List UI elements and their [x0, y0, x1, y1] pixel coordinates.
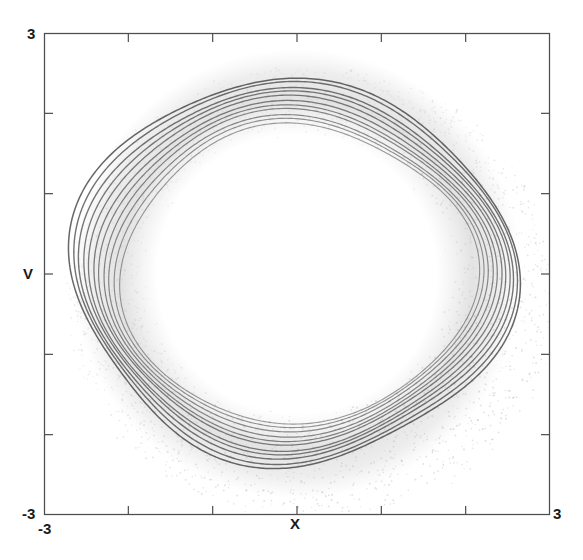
scatter-point	[540, 267, 542, 269]
scatter-point	[342, 507, 344, 509]
scatter-point	[172, 171, 174, 173]
scatter-point	[249, 87, 251, 89]
scatter-point	[329, 96, 330, 97]
scatter-point	[136, 196, 137, 197]
scatter-point	[316, 122, 318, 124]
scatter-point	[146, 457, 148, 459]
scatter-point	[285, 112, 287, 114]
scatter-point	[212, 416, 214, 418]
scatter-point	[442, 461, 443, 462]
scatter-point	[386, 91, 388, 93]
scatter-point	[293, 127, 294, 128]
scatter-point	[413, 423, 415, 425]
scatter-point	[206, 491, 207, 492]
scatter-point	[454, 397, 455, 398]
scatter-point	[70, 317, 72, 319]
scatter-point	[195, 124, 196, 125]
scatter-point	[357, 74, 359, 76]
scatter-point	[509, 299, 511, 301]
scatter-point	[461, 294, 463, 296]
scatter-point	[462, 284, 463, 285]
scatter-point	[125, 193, 127, 195]
scatter-point	[507, 407, 508, 408]
scatter-point	[181, 367, 183, 369]
scatter-point	[413, 443, 415, 445]
scatter-point	[266, 113, 267, 114]
scatter-point	[431, 130, 432, 131]
scatter-point	[195, 463, 197, 465]
scatter-point	[471, 296, 473, 298]
scatter-point	[108, 256, 110, 258]
scatter-point	[452, 483, 453, 484]
scatter-point	[176, 178, 178, 180]
scatter-point	[526, 309, 527, 310]
scatter-point	[112, 300, 114, 302]
scatter-point	[185, 378, 187, 380]
scatter-point	[474, 316, 476, 318]
scatter-point	[291, 106, 292, 107]
scatter-point	[127, 252, 129, 254]
scatter-point	[446, 193, 447, 194]
scatter-point	[124, 309, 126, 311]
scatter-point	[491, 265, 493, 267]
scatter-point	[136, 273, 138, 275]
scatter-point	[388, 90, 390, 92]
scatter-point	[134, 173, 135, 174]
scatter-point	[427, 436, 428, 437]
scatter-point	[385, 460, 387, 462]
scatter-point	[456, 241, 458, 243]
scatter-point	[214, 467, 216, 469]
scatter-point	[448, 326, 449, 327]
scatter-point	[116, 218, 117, 219]
scatter-point	[104, 360, 106, 362]
scatter-point	[300, 83, 301, 84]
scatter-point	[148, 215, 149, 216]
scatter-point	[416, 459, 418, 461]
scatter-point	[115, 411, 116, 412]
scatter-point	[247, 110, 249, 112]
scatter-point	[72, 296, 74, 298]
scatter-point	[198, 150, 200, 152]
scatter-point	[486, 372, 488, 374]
phase-space-figure: 3 -3 -3 3 V X	[0, 0, 583, 560]
scatter-point	[83, 377, 84, 378]
scatter-point	[167, 187, 169, 189]
scatter-point	[302, 74, 304, 76]
scatter-point	[231, 83, 233, 85]
scatter-point	[348, 510, 350, 512]
scatter-point	[309, 117, 311, 119]
scatter-point	[475, 162, 477, 164]
scatter-point	[110, 252, 111, 253]
scatter-point	[540, 331, 542, 333]
scatter-point	[132, 162, 134, 164]
scatter-point	[188, 483, 190, 485]
scatter-point	[215, 486, 217, 488]
scatter-point	[143, 298, 145, 300]
scatter-point	[475, 219, 477, 221]
scatter-point	[494, 160, 496, 162]
scatter-point	[530, 377, 531, 378]
scatter-point	[190, 408, 192, 410]
scatter-point	[289, 501, 291, 503]
scatter-point	[422, 97, 423, 98]
scatter-point	[378, 413, 379, 414]
scatter-point	[384, 484, 386, 486]
scatter-point	[429, 356, 430, 357]
scatter-point	[150, 181, 151, 182]
scatter-point	[177, 135, 179, 137]
scatter-point	[356, 460, 357, 461]
scatter-point	[466, 228, 467, 229]
scatter-point	[261, 130, 262, 131]
scatter-point	[440, 436, 442, 438]
scatter-point	[384, 504, 385, 505]
scatter-point	[382, 418, 384, 420]
scatter-point	[251, 460, 252, 461]
scatter-point	[441, 202, 443, 204]
scatter-point	[379, 82, 380, 83]
scatter-point	[143, 424, 145, 426]
scatter-point	[325, 494, 326, 495]
scatter-point	[122, 330, 123, 331]
scatter-point	[422, 463, 424, 465]
scatter-point	[169, 168, 170, 169]
scatter-point	[266, 111, 268, 113]
